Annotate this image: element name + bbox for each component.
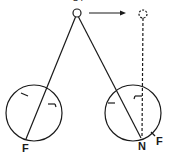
top-partial-label: OT bbox=[72, 0, 85, 3]
left-visual-axis bbox=[26, 17, 76, 139]
left-eye-tick-1 bbox=[21, 93, 28, 96]
shift-arrow-head bbox=[120, 11, 126, 16]
right-eye-tick-2b bbox=[134, 96, 135, 99]
left-eye-circle bbox=[6, 85, 62, 141]
right-fovea-label: F bbox=[156, 136, 163, 147]
shifted-object-circle bbox=[139, 10, 147, 18]
object-circle bbox=[73, 9, 81, 17]
left-eye-tick-2b bbox=[55, 104, 56, 107]
right-nodal-label: N bbox=[138, 141, 146, 152]
eye-fixation-diagram bbox=[0, 0, 171, 161]
right-eye-circle bbox=[105, 85, 161, 141]
left-fovea-label: F bbox=[22, 143, 29, 154]
shifted-axis-dashed bbox=[142, 18, 143, 137]
right-visual-axis bbox=[79, 17, 142, 138]
